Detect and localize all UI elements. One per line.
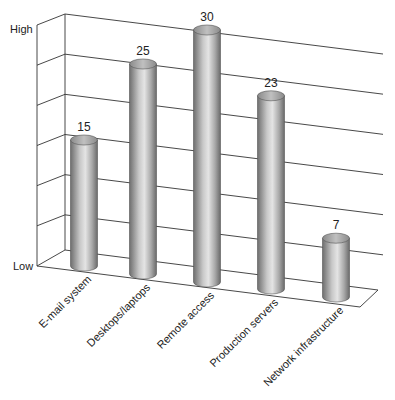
category-label: Remote access <box>154 289 216 351</box>
category-label: Production servers <box>207 296 281 370</box>
value-label: 25 <box>136 44 150 58</box>
bar-production-servers: 23 <box>258 76 285 294</box>
y-axis-low-label: Low <box>13 260 33 272</box>
bars: 152530237 <box>71 10 350 302</box>
value-label: 7 <box>333 218 340 232</box>
y-axis-high-label: High <box>10 23 33 35</box>
category-label: Network infrastructure <box>261 304 346 389</box>
bar-remote-access: 30 <box>194 10 221 287</box>
category-label: Desktops/laptops <box>84 281 153 350</box>
value-label: 30 <box>200 10 214 24</box>
category-label: E-mail system <box>36 273 93 330</box>
category-labels: E-mail systemDesktops/laptopsRemote acce… <box>36 273 345 389</box>
bar-e-mail-system: 15 <box>71 120 98 271</box>
cylinder-bar-chart: High Low 152530237 E-mail systemDesktops… <box>0 0 395 400</box>
bar-network-infrastructure: 7 <box>323 218 350 302</box>
value-label: 15 <box>77 120 91 134</box>
value-label: 23 <box>264 76 278 90</box>
bar-desktops-laptops: 25 <box>130 44 157 279</box>
